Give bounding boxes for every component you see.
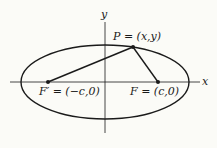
point-p-label: P = (x,y) [113,31,161,42]
focus-f-dot [156,80,160,84]
diagram-graphics [0,0,217,148]
ellipse-diagram: y x P = (x,y) F′ = (−c,0) F = (c,0) [0,0,217,148]
x-axis-label: x [202,76,208,87]
focus-f-prime-dot [46,80,50,84]
focus-f-prime-label: F′ = (−c,0) [39,86,100,97]
segment-f-prime-p [48,47,133,82]
point-p-dot [131,45,135,49]
focus-f-label: F = (c,0) [130,86,179,97]
y-axis-label: y [101,9,107,20]
